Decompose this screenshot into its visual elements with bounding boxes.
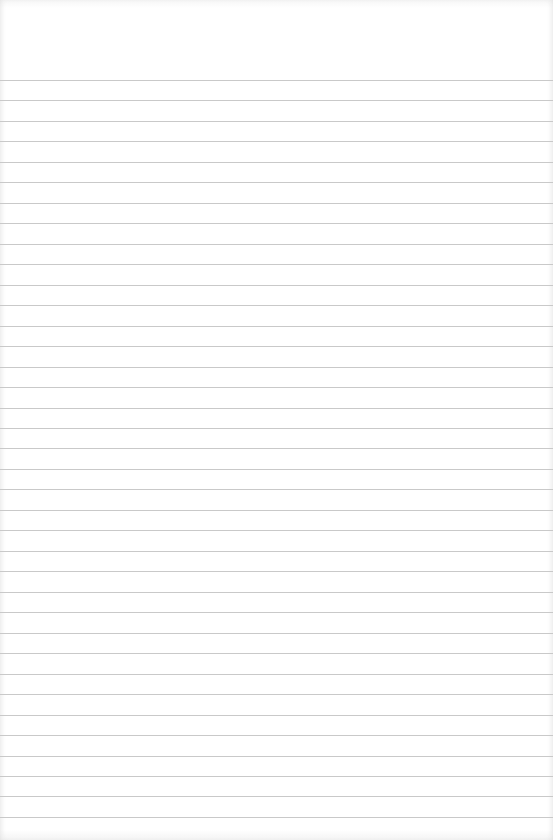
ruled-line: [0, 80, 553, 81]
ruled-line: [0, 121, 553, 122]
ruled-line: [0, 674, 553, 675]
ruled-line: [0, 612, 553, 613]
ruled-line: [0, 203, 553, 204]
ruled-line: [0, 776, 553, 777]
ruled-line: [0, 510, 553, 511]
ruled-line: [0, 264, 553, 265]
ruled-line: [0, 285, 553, 286]
ruled-line: [0, 305, 553, 306]
ruled-line: [0, 694, 553, 695]
ruled-line: [0, 448, 553, 449]
ruled-line: [0, 592, 553, 593]
ruled-line: [0, 633, 553, 634]
ruled-line: [0, 530, 553, 531]
ruled-line: [0, 141, 553, 142]
ruled-line: [0, 244, 553, 245]
ruled-line: [0, 796, 553, 797]
ruled-line: [0, 326, 553, 327]
ruled-line: [0, 387, 553, 388]
ruled-line: [0, 817, 553, 818]
ruled-line: [0, 367, 553, 368]
ruled-line: [0, 551, 553, 552]
ruled-line: [0, 162, 553, 163]
lined-paper-sheet: [0, 0, 553, 840]
ruled-line: [0, 182, 553, 183]
ruled-line: [0, 100, 553, 101]
ruled-line: [0, 735, 553, 736]
ruled-line: [0, 223, 553, 224]
ruled-line: [0, 756, 553, 757]
ruled-line: [0, 715, 553, 716]
ruled-line: [0, 408, 553, 409]
ruled-line: [0, 653, 553, 654]
ruled-line: [0, 571, 553, 572]
ruled-line: [0, 469, 553, 470]
ruled-line: [0, 489, 553, 490]
ruled-line: [0, 346, 553, 347]
ruled-line: [0, 428, 553, 429]
